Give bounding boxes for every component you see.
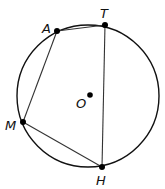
segment-hm [23,122,102,167]
point-a [54,28,60,34]
label-m: M [5,118,16,133]
label-h: H [96,173,106,188]
label-o: O [76,96,86,111]
segment-ma [23,31,57,122]
point-t [102,22,108,28]
point-m [20,119,26,125]
circle-diagram: A T M H O [0,0,165,189]
segment-th [102,25,105,167]
center-point-o [87,92,93,98]
point-h [99,164,105,170]
label-t: T [100,6,109,21]
label-a: A [41,21,51,36]
